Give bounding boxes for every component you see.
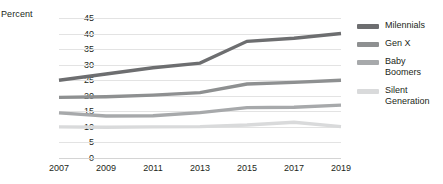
legend-item-label: Baby Boomers	[385, 56, 441, 78]
line-chart: Percent 051015202530354045 2007200920112…	[0, 0, 443, 184]
legend-swatch-icon	[357, 42, 379, 47]
x-axis-tick-label: 2019	[321, 164, 361, 173]
x-axis-tick-label: 2009	[86, 164, 126, 173]
series-line	[59, 122, 341, 127]
legend-item[interactable]: Gen X	[357, 38, 443, 49]
x-axis-tick-label: 2017	[274, 164, 314, 173]
x-axis-tick-label: 2007	[39, 164, 79, 173]
legend-item[interactable]: Silent Generation	[357, 85, 443, 107]
legend-item-label: Silent Generation	[385, 85, 441, 107]
x-axis-tick-label: 2013	[180, 164, 220, 173]
legend-item-label: Milennials	[385, 20, 425, 31]
series-layer	[59, 18, 341, 158]
series-line	[59, 105, 341, 116]
series-line	[59, 34, 341, 81]
legend: MilennialsGen XBaby BoomersSilent Genera…	[357, 20, 443, 114]
x-axis-tick-label: 2015	[227, 164, 267, 173]
plot-area	[59, 18, 341, 158]
gridline	[59, 158, 341, 159]
series-line	[59, 80, 341, 97]
legend-item-label: Gen X	[385, 38, 411, 49]
x-axis-tick-label: 2011	[133, 164, 173, 173]
legend-item[interactable]: Milennials	[357, 20, 443, 31]
legend-item[interactable]: Baby Boomers	[357, 56, 443, 78]
legend-swatch-icon	[357, 89, 379, 94]
legend-swatch-icon	[357, 60, 379, 65]
y-axis-unit-label: Percent	[1, 9, 33, 19]
legend-swatch-icon	[357, 24, 379, 29]
